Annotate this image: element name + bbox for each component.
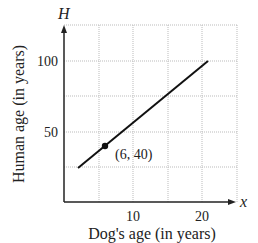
grid: [64, 25, 237, 202]
y-axis-arrow-icon: [61, 25, 67, 33]
y-tick-50: 50: [44, 125, 58, 140]
x-tick-10: 10: [126, 209, 140, 224]
x-axis-arrow-icon: [228, 199, 236, 205]
chart: x H 10 20 50 100 (6, 40) Dog's age (in y…: [0, 0, 258, 243]
x-axis-title: Dog's age (in years): [88, 225, 216, 243]
axes: [64, 30, 230, 202]
point-label: (6, 40): [115, 147, 153, 163]
y-variable-label: H: [57, 5, 71, 22]
y-tick-100: 100: [37, 54, 58, 69]
y-axis-title: Human age (in years): [10, 45, 28, 183]
x-tick-20: 20: [195, 209, 209, 224]
data-point: [102, 143, 108, 149]
x-variable-label: x: [239, 193, 247, 210]
